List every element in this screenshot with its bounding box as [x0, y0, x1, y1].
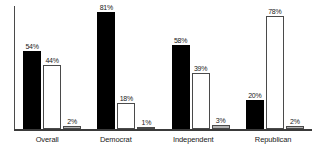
bar-value-label: 54%	[25, 43, 38, 51]
bar: 1%	[137, 127, 155, 129]
bar-slot: 20%	[246, 6, 264, 129]
category-axis-labels: OverallDemocratIndependentRepublican	[15, 135, 312, 149]
bar-value-label: 18%	[120, 95, 133, 103]
bar-slot: 18%	[117, 6, 135, 129]
bar-group: 20%78%2%	[246, 6, 304, 129]
bar-slot: 2%	[286, 6, 304, 129]
bar-slot: 39%	[192, 6, 210, 129]
x-axis-line	[14, 129, 312, 131]
bar-value-label: 2%	[67, 118, 77, 126]
plot-area: 54%44%2%81%18%1%58%39%3%20%78%2%	[14, 6, 312, 131]
bar-value-label: 44%	[45, 57, 58, 65]
category-label: Republican	[255, 135, 292, 145]
bar: 39%	[192, 73, 210, 129]
category-label: Overall	[36, 135, 59, 145]
bar: 2%	[286, 126, 304, 129]
bar-group: 81%18%1%	[97, 6, 155, 129]
bar-groups: 54%44%2%81%18%1%58%39%3%20%78%2%	[15, 6, 312, 129]
bar-group: 54%44%2%	[23, 6, 81, 129]
bar-chart: 54%44%2%81%18%1%58%39%3%20%78%2% Overall…	[0, 0, 318, 153]
category-label: Independent	[173, 135, 214, 145]
bar: 3%	[212, 125, 230, 129]
bar-value-label: 81%	[100, 4, 113, 12]
bar-slot: 81%	[97, 6, 115, 129]
bar: 78%	[266, 16, 284, 129]
bar-value-label: 2%	[290, 118, 300, 126]
bar-slot: 2%	[63, 6, 81, 129]
bar-slot: 44%	[43, 6, 61, 129]
bar-slot: 1%	[137, 6, 155, 129]
bar-slot: 3%	[212, 6, 230, 129]
bar-value-label: 58%	[174, 37, 187, 45]
bar-value-label: 39%	[194, 65, 207, 73]
bar-slot: 54%	[23, 6, 41, 129]
bar-group: 58%39%3%	[172, 6, 230, 129]
bar-slot: 78%	[266, 6, 284, 129]
bar: 18%	[117, 103, 135, 129]
bar: 54%	[23, 51, 41, 129]
bar: 58%	[172, 45, 190, 129]
bar-value-label: 3%	[216, 117, 226, 125]
bar: 81%	[97, 12, 115, 129]
bar-value-label: 20%	[248, 92, 261, 100]
bar-slot: 58%	[172, 6, 190, 129]
bar-value-label: 78%	[268, 8, 281, 16]
bar: 20%	[246, 100, 264, 129]
category-label: Democrat	[100, 135, 132, 145]
bar: 44%	[43, 65, 61, 129]
bar-value-label: 1%	[142, 119, 152, 127]
bar: 2%	[63, 126, 81, 129]
